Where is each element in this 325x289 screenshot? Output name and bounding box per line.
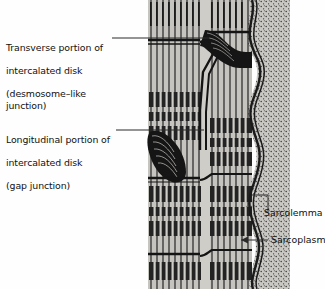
label-longitudinal-line2: intercalated disk: [6, 157, 124, 169]
label-longitudinal-intercalated-disk: Longitudinal portion of intercalated dis…: [6, 122, 124, 203]
label-sarcoplasm: Sarcoplasm: [271, 234, 325, 246]
label-sarcolemma: Sarcolemma: [264, 207, 323, 219]
label-transverse-intercalated-disk: Transverse portion of intercalated disk …: [6, 30, 118, 123]
sarcoplasm-stipple: [246, 0, 290, 289]
label-transverse-line2: intercalated disk: [6, 65, 118, 77]
label-longitudinal-line3: (gap junction): [6, 180, 124, 192]
label-transverse-line1: Transverse portion of: [6, 42, 118, 54]
label-transverse-line3: (desmosome–like junction): [6, 88, 118, 111]
cardiac-muscle-diagram: Transverse portion of intercalated disk …: [0, 0, 325, 289]
label-longitudinal-line1: Longitudinal portion of: [6, 134, 124, 146]
